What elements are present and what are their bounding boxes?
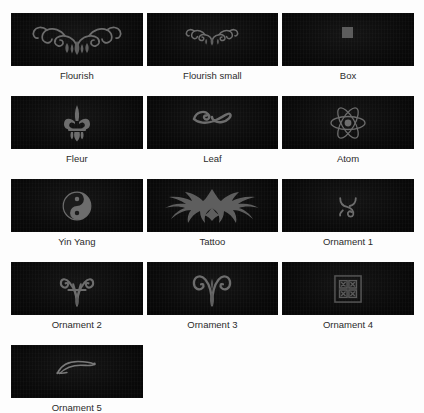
ornament-1-icon: [282, 179, 414, 232]
ornament-preview-swatch[interactable]: [282, 96, 414, 149]
ornament-cell-label: Ornament 4: [323, 315, 373, 336]
ornament-cell-label: Ornament 2: [52, 315, 102, 336]
ornament-3-icon: [147, 262, 279, 315]
ornament-preview-swatch[interactable]: [147, 262, 279, 315]
box-ornament-icon: [282, 13, 414, 66]
tribal-tattoo-ornament-icon: [147, 179, 279, 232]
row-separator: [0, 253, 424, 262]
ornament-preview-swatch[interactable]: [147, 179, 279, 232]
ornament-preview-swatch[interactable]: [11, 345, 143, 398]
ornament-cell-ornament-2[interactable]: Ornament 2: [11, 262, 143, 336]
ornament-preview-swatch[interactable]: [282, 13, 414, 66]
ornament-cell-yin-yang[interactable]: Yin Yang: [11, 179, 143, 253]
gallery-row: Ornament 5: [11, 345, 414, 413]
ornament-5-icon: [11, 345, 143, 398]
ornament-preview-swatch[interactable]: [11, 262, 143, 315]
leaf-ornament-icon: [147, 96, 279, 149]
row-separator: [0, 170, 424, 179]
ornament-cell-box[interactable]: Box: [282, 13, 414, 87]
ornament-cell-ornament-3[interactable]: Ornament 3: [147, 262, 279, 336]
gallery-row: Ornament 2 Ornament 3: [11, 262, 414, 336]
gallery-row: Yin Yang Tattoo: [11, 179, 414, 253]
ornament-cell-ornament-4[interactable]: Ornament 4: [282, 262, 414, 336]
ornament-cell-label: Box: [340, 66, 356, 87]
flourish-small-ornament-icon: [147, 13, 279, 66]
yin-yang-ornament-icon: [11, 179, 143, 232]
ornament-preview-swatch[interactable]: [147, 13, 279, 66]
ornament-preview-swatch[interactable]: [11, 179, 143, 232]
ornament-cell-tattoo[interactable]: Tattoo: [147, 179, 279, 253]
ornament-preview-swatch[interactable]: [282, 262, 414, 315]
ornament-cell-flourish-small[interactable]: Flourish small: [147, 13, 279, 87]
ornament-preview-swatch[interactable]: [11, 96, 143, 149]
ornament-gallery: Flourish: [0, 0, 424, 413]
ornament-cell-fleur[interactable]: Fleur: [11, 96, 143, 170]
row-separator: [0, 87, 424, 96]
ornament-cell-ornament-5[interactable]: Ornament 5: [11, 345, 143, 413]
atom-ornament-icon: [282, 96, 414, 149]
ornament-cell-label: Leaf: [203, 149, 222, 170]
ornament-cell-label: Tattoo: [199, 232, 225, 253]
ornament-preview-swatch[interactable]: [11, 13, 143, 66]
ornament-cell-label: Ornament 3: [187, 315, 237, 336]
ornament-cell-label: Ornament 5: [52, 398, 102, 413]
ornament-cell-label: Atom: [337, 149, 359, 170]
ornament-cell-label: Ornament 1: [323, 232, 373, 253]
row-separator: [0, 336, 424, 345]
row-spacer: [147, 345, 414, 413]
fleur-de-lis-ornament-icon: [11, 96, 143, 149]
ornament-cell-label: Yin Yang: [58, 232, 95, 253]
gallery-row: Fleur Leaf: [11, 96, 414, 170]
ornament-cell-atom[interactable]: Atom: [282, 96, 414, 170]
ornament-cell-label: Flourish small: [183, 66, 242, 87]
ornament-cell-label: Flourish: [60, 66, 94, 87]
ornament-2-icon: [11, 262, 143, 315]
ornament-cell-label: Fleur: [66, 149, 88, 170]
ornament-cell-leaf[interactable]: Leaf: [147, 96, 279, 170]
ornament-preview-swatch[interactable]: [282, 179, 414, 232]
ornament-cell-flourish[interactable]: Flourish: [11, 13, 143, 87]
ornament-4-icon: [282, 262, 414, 315]
gallery-row: Flourish: [11, 13, 414, 87]
ornament-preview-swatch[interactable]: [147, 96, 279, 149]
ornament-cell-ornament-1[interactable]: Ornament 1: [282, 179, 414, 253]
flourish-ornament-icon: [11, 13, 143, 66]
